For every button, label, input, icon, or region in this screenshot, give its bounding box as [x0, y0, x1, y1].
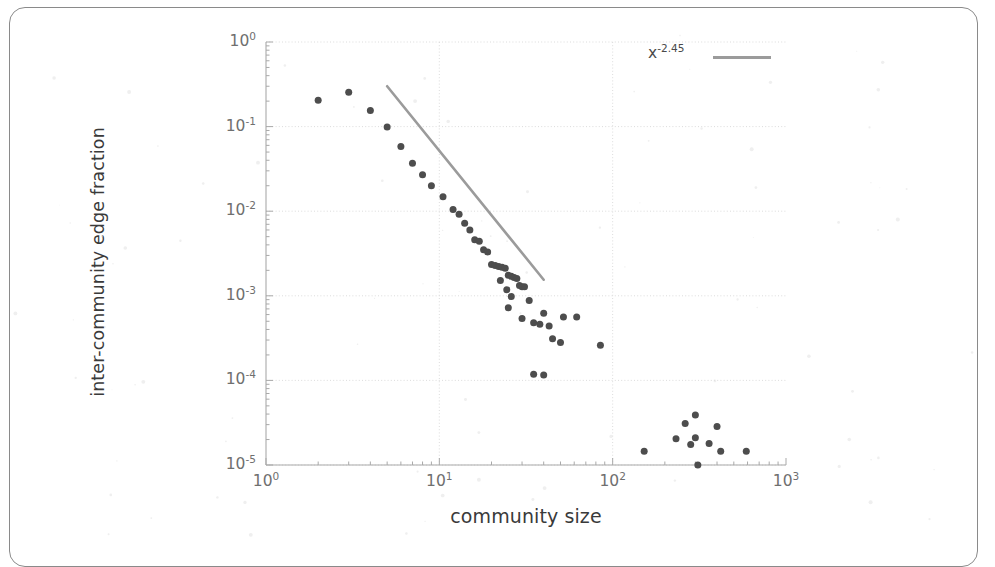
- y-tick-label: 10-5: [226, 455, 256, 473]
- axis-layer: [266, 42, 786, 465]
- x-axis-title: community size: [266, 505, 786, 527]
- y-axis-title: inter-community edge fraction: [88, 102, 108, 422]
- y-tick-label: 10-1: [226, 117, 256, 135]
- grid-layer: [266, 42, 786, 465]
- fit-line: [387, 86, 544, 279]
- legend-line-swatch: [713, 56, 771, 59]
- y-tick-label: 10-2: [226, 201, 256, 219]
- x-tick-label: 101: [399, 472, 479, 490]
- legend: x-2.45: [648, 44, 783, 72]
- x-tick-label: 103: [746, 472, 826, 490]
- x-tick-label: 100: [226, 472, 306, 490]
- legend-entry-label: x-2.45: [648, 44, 684, 62]
- data-points-layer: [315, 89, 750, 469]
- y-tick-label: 10-4: [226, 370, 256, 388]
- x-tick-label: 102: [573, 472, 653, 490]
- legend-entry-exponent: -2.45: [657, 42, 684, 54]
- legend-entry-mantissa: x: [648, 44, 657, 62]
- y-tick-label: 10-3: [226, 286, 256, 304]
- y-tick-label: 100: [230, 32, 256, 50]
